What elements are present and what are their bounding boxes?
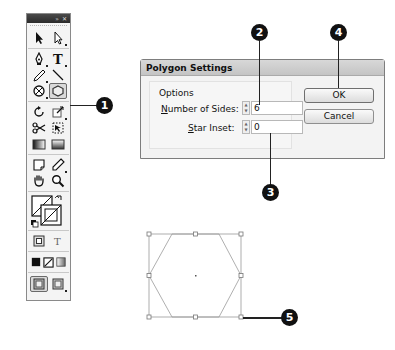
callout-4: 4 — [330, 24, 347, 41]
options-group-label: Options — [159, 88, 194, 98]
up-arrow-icon[interactable]: ▲ — [244, 122, 247, 126]
polygon-tool[interactable] — [49, 83, 67, 99]
star-inset-stepper[interactable]: ▲ ▼ — [242, 120, 250, 134]
polygon-icon — [51, 84, 65, 98]
line-tool[interactable] — [49, 67, 67, 83]
formatting-affects-text[interactable]: T — [49, 233, 67, 249]
separator — [28, 101, 69, 102]
up-arrow-icon[interactable]: ▲ — [244, 103, 247, 107]
fill-stroke-control[interactable] — [30, 194, 67, 228]
hand-tool[interactable] — [30, 173, 48, 189]
down-arrow-icon[interactable]: ▼ — [244, 109, 247, 113]
polygon-settings-dialog: Polygon Settings Options Number of Sides… — [140, 59, 385, 159]
gradient-feather-tool[interactable] — [49, 136, 67, 152]
close-panel-button[interactable]: ✕ — [62, 16, 67, 22]
callout-3: 3 — [262, 184, 279, 201]
callout-leader-3 — [270, 133, 271, 185]
note-icon — [32, 158, 46, 172]
gradient-feather-icon — [51, 137, 65, 151]
callout-2: 2 — [251, 24, 268, 41]
scissors-tool[interactable] — [30, 120, 48, 136]
text-format-icon: T — [51, 234, 65, 248]
collapse-panel-button[interactable]: » — [55, 16, 59, 22]
separator — [28, 154, 69, 155]
star-inset-label: Star Inset: — [188, 123, 234, 133]
callout-leader-2 — [259, 41, 260, 105]
pen-tool[interactable] — [30, 51, 48, 67]
ellipse-frame-tool[interactable] — [30, 83, 48, 99]
rotate-icon — [32, 105, 46, 119]
white-arrow-icon — [51, 31, 65, 45]
separator — [28, 48, 69, 49]
scissors-icon — [32, 121, 46, 135]
ellipse-frame-icon — [32, 84, 46, 98]
free-transform-icon — [51, 121, 65, 135]
callout-5: 5 — [281, 309, 298, 326]
preview-mode-button[interactable] — [49, 276, 67, 292]
eyedropper-icon — [51, 158, 65, 172]
pen-nib-icon — [32, 52, 46, 66]
separator — [28, 230, 69, 231]
formatting-affects-container[interactable] — [30, 233, 48, 249]
gradient-tool[interactable] — [30, 136, 48, 152]
dialog-title: Polygon Settings — [141, 60, 384, 76]
gradient-swatch-icon — [32, 137, 46, 151]
zoom-tool[interactable] — [49, 173, 67, 189]
pencil-tool[interactable] — [30, 67, 48, 83]
direct-selection-tool[interactable] — [49, 30, 67, 46]
down-arrow-icon[interactable]: ▼ — [244, 128, 247, 132]
tools-panel: » ✕ T — [26, 13, 71, 301]
apply-gradient-button[interactable] — [55, 254, 67, 270]
type-t-icon: T — [51, 52, 65, 66]
magnifier-icon — [51, 174, 65, 188]
eyedropper-tool[interactable] — [49, 157, 67, 173]
free-transform-tool[interactable] — [49, 120, 67, 136]
none-swatch-icon — [43, 257, 54, 268]
hand-icon — [32, 174, 46, 188]
container-format-icon — [32, 234, 46, 248]
svg-text:T: T — [54, 236, 61, 247]
apply-none-button[interactable] — [43, 254, 55, 270]
callout-leader-4 — [338, 41, 339, 88]
number-of-sides-label: Number of Sides: — [161, 104, 239, 114]
scale-icon — [51, 105, 65, 119]
center-point — [195, 275, 197, 277]
line-icon — [51, 68, 65, 82]
cancel-button[interactable]: Cancel — [304, 109, 374, 124]
tools-panel-titlebar[interactable]: » ✕ — [27, 14, 70, 23]
callout-leader-1 — [70, 105, 97, 106]
fill-stroke-swatches-icon — [30, 194, 68, 228]
separator — [28, 272, 69, 273]
solid-color-icon — [31, 257, 41, 267]
type-tool[interactable]: T — [49, 51, 67, 67]
callout-1: 1 — [96, 97, 113, 114]
svg-text:T: T — [53, 52, 63, 66]
arrow-icon — [32, 31, 46, 45]
callout-leader-5 — [243, 317, 283, 319]
preview-mode-icon — [51, 277, 65, 291]
polygon-shape[interactable] — [140, 225, 260, 325]
apply-color-button[interactable] — [30, 254, 42, 270]
normal-view-mode-button[interactable] — [30, 276, 48, 292]
selection-tool[interactable] — [30, 30, 48, 46]
pencil-icon — [32, 68, 46, 82]
ok-button[interactable]: OK — [304, 88, 374, 103]
scale-tool[interactable] — [49, 104, 67, 120]
gradient-icon — [56, 257, 66, 267]
number-of-sides-stepper[interactable]: ▲ ▼ — [242, 101, 250, 115]
star-inset-input[interactable]: 0 — [251, 120, 303, 134]
rotate-tool[interactable] — [30, 104, 48, 120]
separator — [28, 251, 69, 252]
normal-view-icon — [32, 277, 46, 291]
separator — [28, 191, 69, 192]
note-tool[interactable] — [30, 157, 48, 173]
